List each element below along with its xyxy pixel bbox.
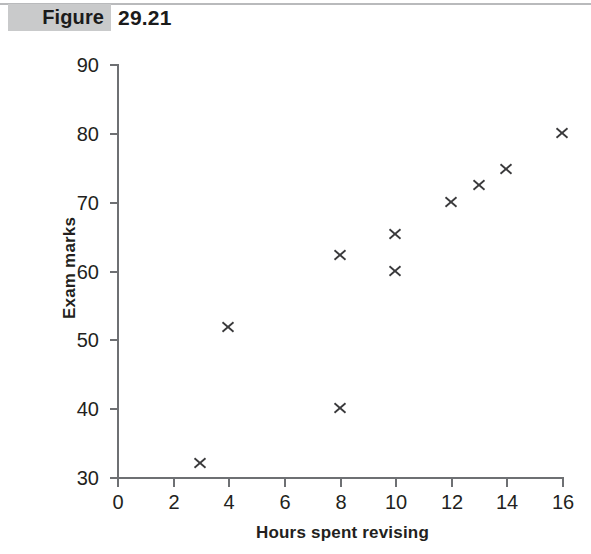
data-point-marker [221,319,236,334]
x-axis-tick-label: 10 [385,491,407,514]
data-point-marker [193,456,208,471]
y-axis-tick-label: 70 [45,192,99,215]
y-axis-top-cap [110,64,118,66]
y-axis-tick-label: 90 [45,54,99,77]
y-axis-tick [110,271,118,273]
x-axis-tick-label: 2 [168,491,179,514]
figure-page: Figure 29.21 304050607080900246810121416… [0,0,591,554]
x-axis-tick [451,479,453,487]
y-axis-tick-label: 80 [45,123,99,146]
data-point-marker [388,263,403,278]
data-point-marker [499,162,514,177]
x-axis-tick-label: 4 [223,491,234,514]
y-axis-tick [110,339,118,341]
data-point-marker [555,125,570,140]
y-axis-tick [110,133,118,135]
x-axis-title: Hours spent revising [256,523,429,543]
data-point-marker [332,247,347,262]
x-axis-tick [506,479,508,487]
x-axis-tick [117,479,119,487]
data-point-marker [471,178,486,193]
data-point-marker [443,194,458,209]
x-axis-tick [395,479,397,487]
x-axis-tick-label: 6 [279,491,290,514]
data-point-marker [388,227,403,242]
x-axis-tick-label: 8 [335,491,346,514]
x-axis-tick [173,479,175,487]
x-axis-tick-label: 0 [112,491,123,514]
data-point-marker [332,401,347,416]
y-axis-tick-label: 40 [45,398,99,421]
y-axis-tick-label: 30 [45,467,99,490]
x-axis-tick-label: 12 [441,491,463,514]
x-axis-tick-label: 16 [552,491,574,514]
x-axis-tick-label: 14 [496,491,518,514]
y-axis-title: Exam marks [60,216,80,318]
x-axis-tick [284,479,286,487]
x-axis-tick [562,479,564,487]
y-axis-tick [110,202,118,204]
y-axis-tick-label: 50 [45,329,99,352]
x-axis-tick [228,479,230,487]
y-axis-tick [110,408,118,410]
scatter-plot: 304050607080900246810121416Hours spent r… [0,0,591,554]
x-axis-tick [340,479,342,487]
